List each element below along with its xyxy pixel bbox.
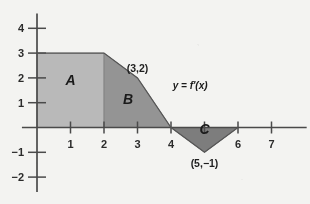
x-tick-label: 2	[101, 138, 107, 150]
y-tick-label: 4	[18, 22, 25, 34]
x-tick-label: 1	[67, 138, 73, 150]
x-tick-label: 7	[268, 138, 274, 150]
region-b-label: B	[123, 91, 133, 107]
y-tick-label: 3	[18, 47, 24, 59]
curve-equation-label: y = f'(x)	[172, 80, 209, 91]
y-axis-tick-labels: 4321−1−2	[11, 22, 24, 183]
y-tick-label: 2	[18, 72, 24, 84]
region-a-label: A	[64, 72, 75, 88]
point-label-5-neg1: (5,−1)	[191, 157, 219, 169]
derivative-graph-figure: 123467 4321−1−2 A B C (3,2) (5,−1) y = f…	[0, 0, 310, 204]
y-tick-label: −1	[11, 146, 24, 158]
x-axis-tick-labels: 123467	[67, 138, 274, 150]
x-tick-label: 6	[235, 138, 241, 150]
point-label-3-2: (3,2)	[127, 62, 149, 74]
x-tick-label: 3	[134, 138, 140, 150]
x-tick-label: 4	[168, 138, 175, 150]
region-a-shape	[37, 53, 104, 127]
y-tick-label: −2	[11, 171, 24, 183]
region-c-label: C	[199, 121, 210, 137]
y-tick-label: 1	[18, 97, 24, 109]
